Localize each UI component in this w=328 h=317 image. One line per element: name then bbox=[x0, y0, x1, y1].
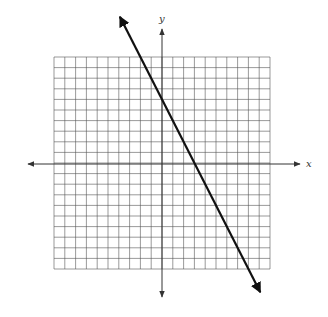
y-axis-label: y bbox=[158, 13, 165, 24]
coordinate-plane-chart: x y bbox=[0, 0, 328, 317]
plotted-line bbox=[120, 17, 260, 293]
x-axis-label: x bbox=[306, 158, 312, 169]
